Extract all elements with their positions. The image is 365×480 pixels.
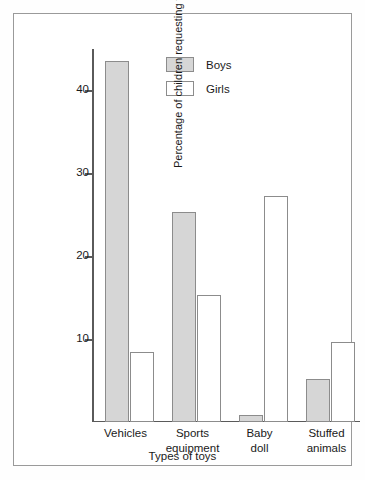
- x-axis-title: Types of toys: [0, 450, 365, 462]
- bar-girls-vehicles: [130, 352, 154, 422]
- y-tick-label: 10: [76, 330, 89, 347]
- x-label-vehicles: Vehicles: [92, 426, 159, 441]
- y-tick-label: 30: [76, 164, 89, 181]
- bar-boys-baby-doll: [239, 415, 263, 422]
- bar-girls-sports-equipment: [197, 295, 221, 422]
- bar-girls-baby-doll: [264, 196, 288, 422]
- bar-boys-stuffed-animals: [306, 379, 330, 422]
- bar-girls-stuffed-animals: [331, 342, 355, 422]
- chart-figure: 10203040 VehiclesSports equipmentBaby do…: [0, 0, 365, 480]
- bar-boys-vehicles: [105, 61, 129, 422]
- y-tick-label: 40: [76, 81, 89, 98]
- y-axis-title: Percentage of children requesting toys i…: [22, 0, 38, 56]
- y-tick-label: 20: [76, 247, 89, 264]
- legend-label-boys: Boys: [206, 59, 232, 71]
- legend-label-girls: Girls: [206, 83, 230, 95]
- y-axis-line: [92, 49, 94, 422]
- bar-boys-sports-equipment: [172, 212, 196, 422]
